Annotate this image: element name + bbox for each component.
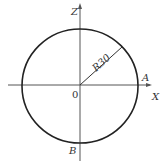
z-axis-label: Z [70, 6, 79, 17]
x-axis-arrow-icon [146, 83, 152, 87]
x-axis-label: X [151, 91, 160, 102]
z-axis-arrow-icon [78, 3, 82, 9]
point-a-label: A [141, 72, 149, 83]
circle-diagram: Z R30 A 0 X B [0, 0, 165, 167]
point-b-label: B [68, 145, 76, 156]
origin-label: 0 [72, 89, 78, 100]
radius-label: R30 [89, 51, 113, 74]
